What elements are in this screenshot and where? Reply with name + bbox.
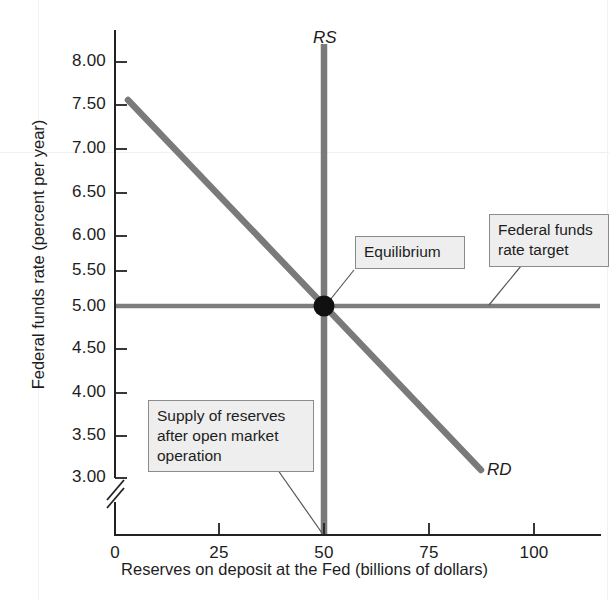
callout-supply-of-reserves: Supply of reserves after open market ope… xyxy=(148,400,314,472)
equilibrium-point-marker xyxy=(314,296,335,317)
y-tick-label-800: 8.00 xyxy=(40,51,106,71)
y-tick-label-450: 4.50 xyxy=(40,338,106,358)
y-tick-label-650: 6.50 xyxy=(40,182,106,202)
y-tick-label-500: 5.00 xyxy=(40,296,106,316)
leader-line-equilibrium xyxy=(330,270,354,300)
y-tick-label-600: 6.00 xyxy=(40,225,106,245)
x-axis-title: Reserves on deposit at the Fed (billions… xyxy=(0,560,609,579)
y-tick-label-550: 5.50 xyxy=(40,260,106,280)
y-tick-label-400: 4.00 xyxy=(40,382,106,402)
callout-federal-funds-rate-target: Federal funds rate target xyxy=(489,214,609,267)
y-tick-label-350: 3.50 xyxy=(40,425,106,445)
y-tick-label-700: 7.00 xyxy=(40,138,106,158)
chart-figure: 8.00 7.50 7.00 6.50 6.00 5.50 5.00 4.50 … xyxy=(0,0,609,600)
y-axis-title: Federal funds rate (percent per year) xyxy=(29,95,48,415)
leader-line-target xyxy=(489,266,521,305)
y-tick-label-300: 3.00 xyxy=(40,467,106,487)
curve-label-rd: RD xyxy=(487,460,512,480)
y-tick-label-750: 7.50 xyxy=(40,94,106,114)
callout-equilibrium: Equilibrium xyxy=(355,236,465,269)
curve-label-rs: RS xyxy=(313,28,337,48)
